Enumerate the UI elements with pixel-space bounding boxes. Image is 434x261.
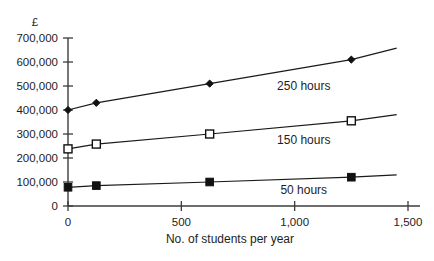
data-point-marker xyxy=(64,145,72,153)
y-tick-label: 400,000 xyxy=(16,104,58,116)
data-point-marker xyxy=(348,173,356,181)
x-tick-label: 1,500 xyxy=(394,216,423,228)
data-point-marker xyxy=(64,183,72,191)
y-tick-label: 500,000 xyxy=(16,80,58,92)
line-chart: £ 0100,000200,000300,000400,000500,00060… xyxy=(0,0,434,261)
x-tick-label: 500 xyxy=(172,216,191,228)
series-label: 250 hours xyxy=(277,79,330,93)
x-tick-label: 0 xyxy=(65,216,71,228)
series-label: 150 hours xyxy=(277,133,330,147)
data-point-marker xyxy=(206,80,213,87)
data-point-marker xyxy=(206,178,214,186)
data-point-marker xyxy=(206,130,214,138)
y-axis-title: £ xyxy=(32,16,39,28)
data-point-marker xyxy=(93,182,101,190)
x-tick-label: 1,000 xyxy=(280,216,309,228)
y-tick-label: 300,000 xyxy=(16,128,58,140)
series-line xyxy=(68,48,397,110)
data-point-marker xyxy=(347,117,355,125)
series-markers xyxy=(64,56,355,191)
y-tick-label: 700,000 xyxy=(16,32,58,44)
y-tick-label: 0 xyxy=(52,200,58,212)
y-tick-label: 600,000 xyxy=(16,56,58,68)
chart-container: £ 0100,000200,000300,000400,000500,00060… xyxy=(0,0,434,261)
x-axis-tick-labels: 05001,0001,500 xyxy=(65,216,423,228)
y-axis-tick-labels: 0100,000200,000300,000400,000500,000600,… xyxy=(16,32,58,212)
data-point-marker xyxy=(93,99,100,106)
data-point-marker xyxy=(348,56,355,63)
series-label: 50 hours xyxy=(280,183,327,197)
y-tick-label: 200,000 xyxy=(16,152,58,164)
data-point-marker xyxy=(92,140,100,148)
y-tick-label: 100,000 xyxy=(16,176,58,188)
x-axis-title: No. of students per year xyxy=(166,232,294,246)
data-point-marker xyxy=(64,106,71,113)
